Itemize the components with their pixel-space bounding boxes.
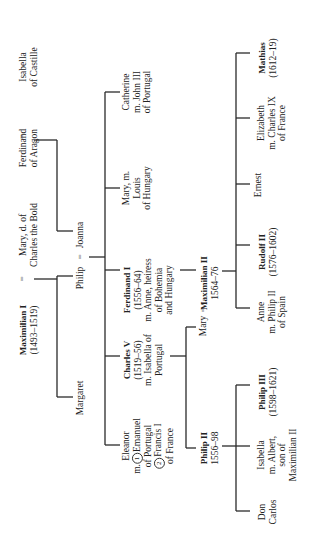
spouse-line: m. John III	[132, 71, 143, 113]
spouse-line: Maximilian II	[288, 428, 299, 481]
circled-number-1: 1	[132, 453, 143, 464]
charles-v: Charles V (1519–56) m. Isabella of Portu…	[122, 334, 164, 386]
spouse-line: 2Francis I	[153, 418, 164, 474]
reign-dates: (1493–1519)	[28, 305, 39, 355]
spouse-line: m.1Emanuel	[131, 418, 142, 474]
philip-iii: Philip III (1598–1621)	[257, 367, 278, 416]
spouse-line: m. Philip II	[267, 290, 278, 334]
spouse-line: Portugal	[154, 334, 165, 386]
title-line: of Aragon	[28, 129, 39, 168]
spouse-line: and Hungary	[164, 258, 175, 321]
maximilian-i: Maximilian I (1493–1519)	[18, 305, 39, 355]
marriage-sign: =	[198, 307, 208, 312]
spouse-title: of France	[165, 418, 176, 474]
reign-dates: (1556–64)	[132, 258, 143, 321]
title-line: of Castille	[28, 47, 39, 86]
philip-ii: Philip II 1556–98	[199, 431, 220, 464]
name-line: Don	[257, 500, 268, 525]
title-line: of France	[277, 96, 288, 150]
ruler-name: Maximilian I	[18, 305, 29, 355]
margaret: Margaret	[75, 381, 86, 416]
married-prefix: m.	[131, 464, 141, 474]
elizabeth: Elizabeth m. Charles IX of France	[256, 96, 288, 150]
title-line: of Spain	[277, 290, 288, 334]
ferdinand-i: Ferdinand I (1556–64) m. Anne, heiress o…	[122, 258, 175, 321]
reign-dates: (1576–1602)	[267, 227, 278, 276]
marriage-sign: =	[75, 254, 85, 259]
title-line: of Portugal	[142, 71, 153, 113]
reign-dates: (1598–1621)	[267, 367, 278, 416]
eleanor: Eleanor m.1Emanuel of Portugal 2Francis …	[121, 418, 175, 474]
joanna: Joanna	[75, 222, 86, 248]
name-line: Mary, d. of	[18, 203, 29, 267]
spouse-title: of Portugal	[143, 418, 154, 474]
reign-dates: (1519–56)	[133, 334, 144, 386]
reign-dates: 1564–76	[209, 256, 220, 310]
ruler-name: Maximilian II	[199, 256, 210, 310]
isabella-infanta: Isabella m. Albert, son of Maximilian II	[256, 428, 298, 481]
name-line: Isabella	[256, 428, 267, 481]
spouse-line: son of	[277, 428, 288, 481]
rudolf-ii: Rudolf II (1576–1602)	[257, 227, 278, 276]
name-line: Anne	[256, 290, 267, 334]
catherine: Catherine m. John III of Portugal	[121, 71, 153, 113]
title-line: of Hungary	[142, 166, 153, 210]
don-carlos: Don Carlos	[257, 500, 278, 525]
marriage-sign: =	[17, 134, 27, 139]
ruler-name: Rudolf II	[257, 227, 268, 276]
spouse-name: Emanuel	[131, 418, 141, 452]
name-line: Eleanor	[121, 418, 132, 474]
spouse-line: m. Isabella of	[143, 334, 154, 386]
title-line: Charles the Bold	[28, 203, 39, 267]
mary-daughter-of-charles-v: Mary	[198, 316, 209, 337]
anne: Anne m. Philip II of Spain	[256, 290, 288, 334]
mary-of-burgundy: Mary, d. of Charles the Bold	[18, 203, 39, 267]
name-line: Catherine	[121, 71, 132, 113]
spouse-name: Francis I	[153, 423, 163, 457]
ruler-name: Ferdinand I	[122, 258, 133, 321]
isabella-of-castille: Isabella of Castille	[18, 47, 39, 86]
mathias: Mathias (1612–19)	[257, 38, 278, 78]
philip: Philip	[75, 267, 86, 290]
maximilian-ii: Maximilian II 1564–76	[199, 256, 220, 310]
name-line: Carlos	[267, 500, 278, 525]
name-line: Mary, m.	[121, 166, 132, 210]
reign-dates: 1556–98	[209, 431, 220, 464]
name-line: Elizabeth	[256, 96, 267, 150]
spouse-line: m. Albert,	[267, 428, 278, 481]
name-line: Isabella	[18, 47, 29, 86]
spouse-line: m. Anne, heiress	[143, 258, 154, 321]
spouse-line: m. Charles IX	[267, 96, 278, 150]
mary-of-hungary: Mary, m. Louis of Hungary	[121, 166, 153, 210]
ruler-name: Philip II	[199, 431, 210, 464]
spouse-line: of Bohemia	[153, 258, 164, 321]
circled-number-2: 2	[154, 458, 165, 469]
habsburg-family-tree: Ferdinand of Aragon = Isabella of Castil…	[0, 0, 312, 552]
ruler-name: Charles V	[122, 334, 133, 386]
ruler-name: Philip III	[257, 367, 268, 416]
ruler-name: Mathias	[257, 38, 268, 78]
spouse-line: Louis	[132, 166, 143, 210]
reign-dates: (1612–19)	[267, 38, 278, 78]
marriage-sign: =	[17, 276, 27, 281]
ernest: Ernest	[253, 173, 264, 197]
